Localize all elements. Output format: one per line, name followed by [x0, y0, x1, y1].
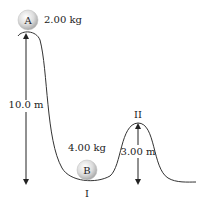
ball-a-letter: A: [23, 15, 32, 26]
track-curve: [18, 32, 196, 182]
ball-a-mass: 2.00 kg: [44, 14, 83, 25]
point-i-label: I: [85, 188, 89, 199]
height-label-3m: 3.00 m: [121, 146, 156, 157]
height-label-10m: 10.0 m: [9, 99, 44, 110]
diagram: 10.0 m 3.00 m A 2.00 kg B 4.00 kg I II: [0, 0, 208, 205]
track-diagram: 10.0 m 3.00 m A 2.00 kg B 4.00 kg I II: [0, 0, 208, 205]
ball-b-mass: 4.00 kg: [68, 142, 107, 153]
ball-b-letter: B: [83, 165, 90, 176]
point-ii-label: II: [134, 109, 142, 120]
